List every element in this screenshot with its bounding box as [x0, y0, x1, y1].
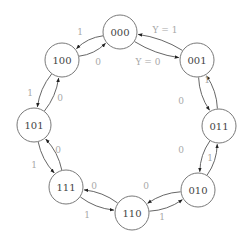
transition-arrow-010-to-110	[148, 192, 181, 204]
nodes-layer: 000001011010110111101100	[17, 15, 236, 230]
transition-label-100-to-101: 0	[57, 93, 63, 103]
transition-arrow-001-to-000	[138, 34, 182, 50]
transition-label-000-to-001: Y = 1	[152, 25, 178, 35]
transition-arrow-100-to-101	[37, 74, 51, 107]
transition-arrow-110-to-010	[149, 200, 182, 212]
state-label: 101	[24, 120, 43, 131]
transition-label-010-to-110: 1	[159, 212, 165, 222]
state-node-000: 000	[103, 15, 137, 49]
transition-label-011-to-010: 1	[207, 153, 213, 163]
state-node-100: 100	[45, 43, 79, 77]
transition-arrow-100-to-000	[79, 43, 106, 56]
state-node-111: 111	[49, 170, 83, 204]
transition-label-000-to-100: 0	[95, 57, 101, 67]
transition-label-101-to-111: 0	[55, 145, 61, 155]
state-label: 001	[187, 55, 206, 66]
transition-label-110-to-111: 1	[84, 210, 90, 220]
transition-label-100-to-000: 1	[77, 27, 83, 37]
transition-label-111-to-101: 1	[31, 160, 37, 170]
state-node-001: 001	[180, 43, 214, 77]
state-label: 100	[52, 55, 71, 66]
state-label: 010	[188, 185, 207, 196]
state-node-110: 110	[115, 196, 149, 230]
state-label: 011	[209, 121, 228, 132]
transition-arrow-000-to-001	[135, 42, 179, 58]
state-node-010: 010	[181, 173, 215, 207]
transition-label-001-to-011: 1	[204, 75, 210, 85]
transition-label-101-to-100: 1	[27, 88, 33, 98]
transition-label-011-to-001: 0	[178, 96, 184, 106]
transition-arrow-110-to-111	[84, 190, 117, 203]
state-label: 111	[56, 182, 75, 193]
transition-label-111-to-110: 0	[91, 181, 97, 191]
state-node-101: 101	[17, 108, 51, 142]
transition-label-010-to-011: 0	[178, 145, 184, 155]
transition-arrow-000-to-100	[77, 36, 104, 49]
transition-label-110-to-010: 0	[143, 181, 149, 191]
transition-arrow-111-to-110	[80, 197, 113, 210]
state-node-011: 011	[202, 109, 236, 143]
transition-label-001-to-000: Y = 0	[135, 57, 161, 67]
state-label: 110	[122, 208, 141, 219]
state-diagram: Y = 1Y = 010101010101010 000001011010110…	[0, 0, 241, 246]
state-label: 000	[110, 27, 129, 38]
diagram-canvas: Y = 1Y = 010101010101010 000001011010110…	[0, 0, 241, 246]
